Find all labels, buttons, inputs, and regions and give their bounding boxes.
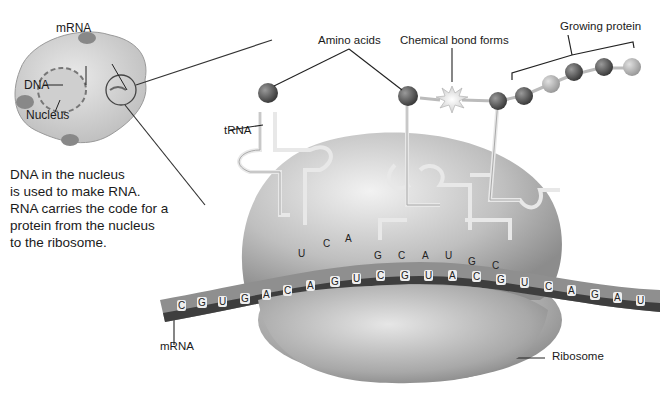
mrna-base: U bbox=[520, 277, 529, 288]
caption-line: RNA carries the code for a bbox=[10, 200, 220, 217]
mrna-base: A bbox=[306, 280, 315, 291]
label-mrna-inset: mRNA bbox=[56, 21, 91, 35]
anticodon-base: C bbox=[398, 250, 405, 261]
mrna-base: C bbox=[177, 300, 186, 311]
label-amino-acids: Amino acids bbox=[318, 34, 381, 46]
mrna-base: U bbox=[218, 296, 227, 307]
label-growing-protein: Growing protein bbox=[560, 20, 641, 32]
mrna-base: G bbox=[400, 270, 410, 281]
mrna-base: A bbox=[567, 285, 576, 296]
mrna-base: C bbox=[376, 270, 385, 281]
amino-acid-icon bbox=[595, 58, 613, 76]
anticodon-base: A bbox=[345, 233, 352, 244]
mrna-base: A bbox=[448, 270, 457, 281]
mrna-base: G bbox=[590, 289, 600, 300]
mrna-base: C bbox=[544, 281, 553, 292]
caption-line: to the ribosome. bbox=[10, 234, 220, 251]
mrna-base: C bbox=[283, 285, 292, 296]
label-ribosome: Ribosome bbox=[552, 350, 604, 362]
caption-line: protein from the nucleus bbox=[10, 217, 220, 234]
mrna-base: G bbox=[330, 276, 340, 287]
mrna-base: A bbox=[262, 289, 271, 300]
label-nucleus: Nucleus bbox=[26, 108, 69, 122]
anticodon-base: C bbox=[323, 238, 330, 249]
label-dna: DNA bbox=[24, 78, 49, 92]
mitochondrion-shape bbox=[16, 95, 34, 109]
mrna-base: G bbox=[496, 274, 506, 285]
amino-acid-icon bbox=[515, 87, 533, 105]
mrna-base: U bbox=[352, 273, 361, 284]
amino-acid-icon bbox=[542, 75, 560, 93]
anticodon-base: G bbox=[374, 250, 382, 261]
caption: DNA in the nucleus is used to make RNA. … bbox=[10, 166, 220, 251]
caption-line: is used to make RNA. bbox=[10, 183, 220, 200]
mrna-base: U bbox=[424, 270, 433, 281]
label-mrna: mRNA bbox=[160, 340, 194, 352]
amino-acid-icon bbox=[489, 92, 507, 110]
label-trna: tRNA bbox=[224, 124, 251, 136]
caption-line: DNA in the nucleus bbox=[10, 166, 220, 183]
amino-acid-icon bbox=[623, 58, 641, 76]
anticodon-base: U bbox=[445, 250, 452, 261]
anticodon-base: G bbox=[468, 256, 476, 267]
mrna-base: C bbox=[472, 271, 481, 282]
mrna-base: U bbox=[636, 295, 645, 306]
anticodon-base: A bbox=[422, 250, 429, 261]
anticodon-base: C bbox=[492, 260, 499, 271]
anticodon-base: U bbox=[298, 248, 305, 259]
mrna-base: A bbox=[613, 292, 622, 303]
mrna-base: G bbox=[240, 293, 250, 304]
label-chemical-bond: Chemical bond forms bbox=[400, 34, 509, 46]
amino-acid-icon bbox=[565, 63, 583, 81]
mrna-base: G bbox=[197, 297, 207, 308]
